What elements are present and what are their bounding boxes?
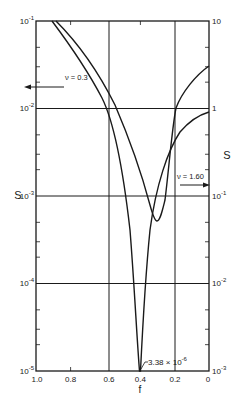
svg-text:10-4: 10-4 bbox=[20, 277, 35, 288]
svg-text:10: 10 bbox=[212, 17, 221, 26]
nu-0.3-label: ν = 0.3 bbox=[65, 73, 88, 82]
nu-1.60-label: ν = 1.60 bbox=[177, 172, 204, 181]
x-tick-labels: 1.0 0.8 0.6 0.4 0.2 0 bbox=[31, 375, 210, 384]
x-axis-title: f bbox=[139, 384, 142, 395]
min-leader-line bbox=[141, 362, 148, 369]
svg-text:0.8: 0.8 bbox=[65, 375, 77, 384]
svg-text:0.2: 0.2 bbox=[169, 375, 181, 384]
y-left-tick-labels: 10-1 10-2 10-3 10-4 10-5 bbox=[20, 15, 35, 376]
svg-text:10-2: 10-2 bbox=[212, 277, 227, 288]
y-right-axis-title: S bbox=[223, 149, 230, 161]
y-left-axis-title: S bbox=[14, 189, 21, 201]
svg-text:10-3: 10-3 bbox=[212, 365, 227, 376]
curve-nu-1.60 bbox=[56, 21, 209, 221]
arrow-right-icon bbox=[180, 183, 210, 188]
svg-text:1.0: 1.0 bbox=[31, 375, 43, 384]
svg-text:10-2: 10-2 bbox=[20, 102, 35, 113]
svg-text:10-1: 10-1 bbox=[20, 15, 35, 26]
arrow-left-icon bbox=[24, 85, 64, 90]
svg-text:0.6: 0.6 bbox=[103, 375, 115, 384]
svg-text:1: 1 bbox=[212, 104, 217, 113]
svg-text:0: 0 bbox=[206, 375, 211, 384]
horizontal-gridlines bbox=[36, 109, 209, 284]
y-right-tick-labels: 10 1 10-1 10-2 10-3 bbox=[212, 17, 227, 376]
svg-text:10-3: 10-3 bbox=[20, 190, 35, 201]
min-value-label: 3.38 × 10-6 bbox=[148, 356, 188, 367]
svg-text:0.4: 0.4 bbox=[135, 375, 147, 384]
chart: 3.38 × 10-6 ν = 0.3 ν = 1.60 10-1 10-2 1… bbox=[0, 0, 242, 406]
svg-text:10-1: 10-1 bbox=[212, 190, 227, 201]
